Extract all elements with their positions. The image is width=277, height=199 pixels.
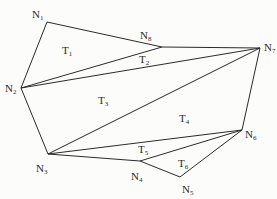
node-label-n8: N8 <box>140 30 151 43</box>
node-label-base: N <box>32 8 40 20</box>
edge-n3-n7 <box>48 48 260 154</box>
node-label-base: N <box>245 128 253 140</box>
triangle-label-subscript: 4 <box>186 118 190 126</box>
triangle-label-subscript: 5 <box>145 149 149 157</box>
triangle-label-t3: T3 <box>98 95 108 108</box>
edge-n5-n6 <box>180 130 242 177</box>
triangle-label-base: T <box>139 53 146 65</box>
edge-n3-n4 <box>48 154 140 161</box>
triangle-label-base: T <box>178 157 185 169</box>
node-label-n7: N7 <box>264 42 275 55</box>
edge-n7-n6 <box>242 48 260 130</box>
node-label-n5: N5 <box>182 184 193 197</box>
triangle-label-subscript: 2 <box>146 59 150 67</box>
node-label-n6: N6 <box>245 129 256 142</box>
edge-n1-n2 <box>21 22 47 88</box>
node-label-base: N <box>264 41 272 53</box>
node-label-base: N <box>36 162 44 174</box>
node-label-subscript: 3 <box>44 168 48 176</box>
node-label-subscript: 1 <box>40 14 44 22</box>
edge-n8-n7 <box>162 47 260 48</box>
triangle-label-base: T <box>62 44 69 56</box>
triangle-label-subscript: 6 <box>185 163 189 171</box>
node-label-subscript: 5 <box>190 189 194 197</box>
node-label-n1: N1 <box>32 9 43 22</box>
triangle-label-base: T <box>98 94 105 106</box>
edge-n4-n5 <box>140 161 180 177</box>
triangle-label-subscript: 3 <box>105 100 109 108</box>
node-label-base: N <box>182 183 190 195</box>
triangle-label-base: T <box>179 112 186 124</box>
node-label-n3: N3 <box>36 163 47 176</box>
node-label-base: N <box>131 170 139 182</box>
triangle-label-t1: T1 <box>62 45 72 58</box>
triangle-label-t4: T4 <box>179 113 189 126</box>
triangle-label-t5: T5 <box>138 144 148 157</box>
triangle-label-t2: T2 <box>139 54 149 67</box>
node-label-n2: N2 <box>5 83 16 96</box>
triangle-label-subscript: 1 <box>69 50 73 58</box>
node-label-base: N <box>5 82 13 94</box>
node-label-subscript: 6 <box>253 134 257 142</box>
edge-n2-n3 <box>21 88 48 154</box>
node-label-base: N <box>140 29 148 41</box>
node-label-subscript: 2 <box>13 88 17 96</box>
edge-n4-n6 <box>140 130 242 161</box>
node-label-subscript: 4 <box>139 176 143 184</box>
triangulation-diagram: N1N2N3N4N5N6N7N8T1T2T3T4T5T6 <box>0 0 277 199</box>
node-label-subscript: 8 <box>148 35 152 43</box>
node-label-n4: N4 <box>131 171 142 184</box>
triangle-label-t6: T6 <box>178 158 188 171</box>
node-label-subscript: 7 <box>272 47 276 55</box>
triangle-label-base: T <box>138 143 145 155</box>
